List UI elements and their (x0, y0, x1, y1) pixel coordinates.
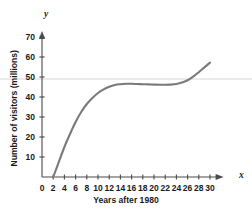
x-tick-label: 4 (62, 184, 67, 193)
x-tick-label: 0 (40, 184, 45, 193)
x-tick-label: 26 (183, 184, 192, 193)
x-axis-variable-label: x (239, 171, 244, 181)
x-tick-label: 24 (172, 184, 181, 193)
x-tick-label: 10 (93, 184, 102, 193)
x-tick-label: 16 (127, 184, 136, 193)
x-tick-label: 18 (138, 184, 147, 193)
chart-axes (39, 31, 224, 180)
x-tick-label: 12 (104, 184, 113, 193)
y-axis-variable-label: y (44, 10, 48, 20)
y-axis-title: Number of visitors (millions) (10, 43, 19, 173)
x-tick-label: 8 (84, 184, 89, 193)
x-tick-label: 20 (149, 184, 158, 193)
chart-tick-marks (39, 37, 210, 180)
x-tick-label: 2 (51, 184, 56, 193)
x-tick-label: 14 (116, 184, 125, 193)
x-tick-label: 28 (194, 184, 203, 193)
chart-figure: 1020304050607002468101214161820222426283… (0, 0, 252, 216)
x-axis-title: Years after 1980 (0, 196, 252, 205)
x-tick-label: 22 (160, 184, 169, 193)
data-series-line (53, 63, 210, 177)
x-tick-label: 6 (73, 184, 78, 193)
y-tick-label: 70 (8, 33, 35, 42)
x-tick-label: 30 (205, 184, 214, 193)
